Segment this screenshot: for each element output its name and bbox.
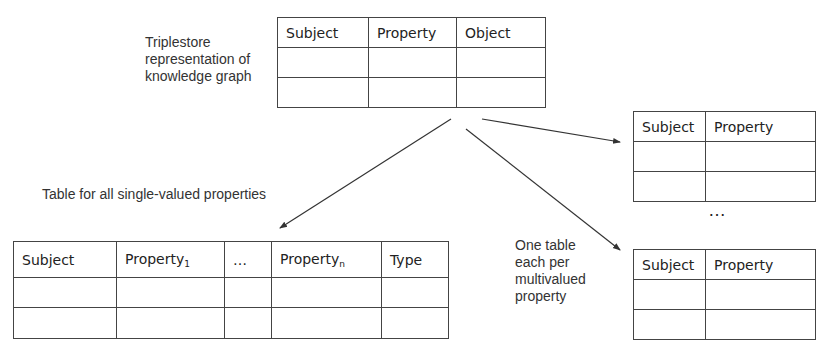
arrow-to-multivalued-table-first [482, 119, 620, 142]
arrow-to-single-valued-table [280, 119, 451, 228]
arrows-layer [0, 0, 831, 351]
arrow-to-multivalued-table-last [466, 129, 620, 250]
